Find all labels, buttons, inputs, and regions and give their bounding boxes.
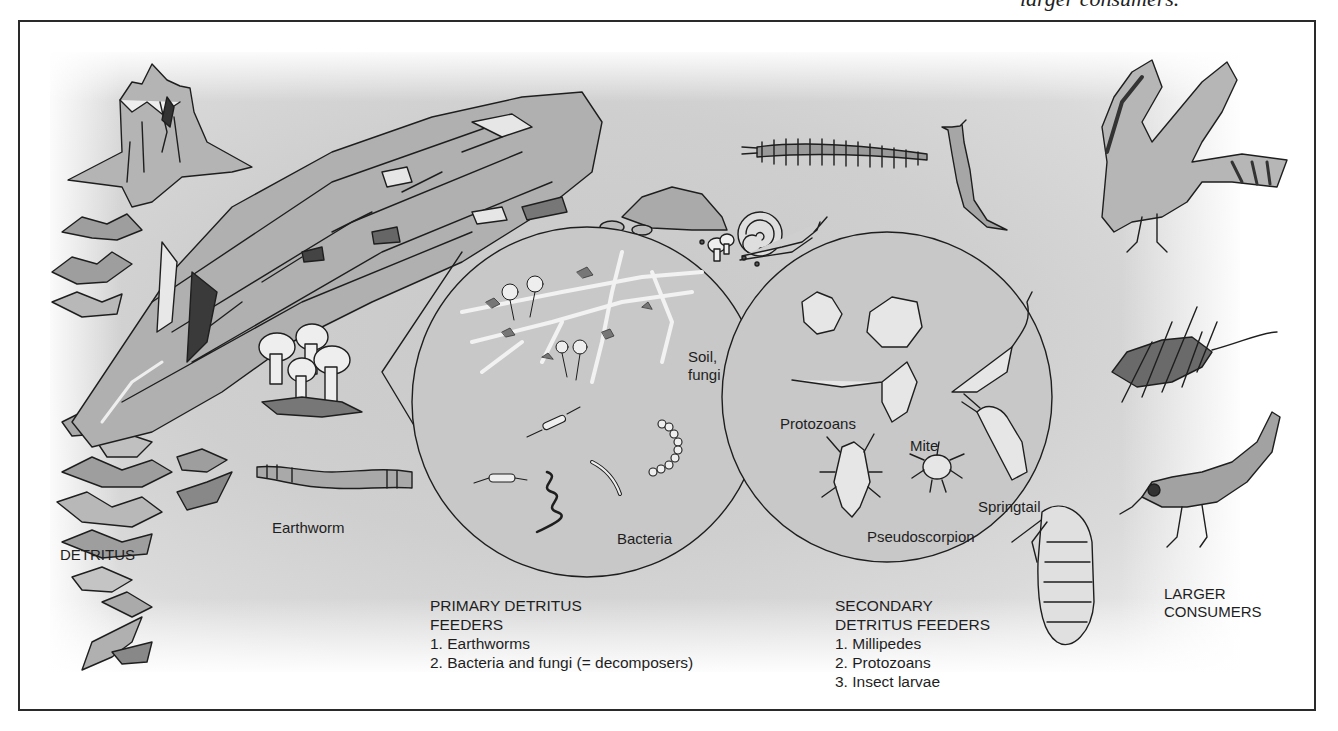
soil-fungi-circle [412,227,762,577]
primary-title: PRIMARY DETRITUS [430,596,693,615]
secondary-detritus-feeders: SECONDARY DETRITUS FEEDERS 1. Millipedes… [835,596,990,691]
bird-icon [1120,412,1280,547]
secondary-title: SECONDARY [835,596,990,615]
secondary-item: 3. Insect larvae [835,672,990,691]
insect-larva-icon [1032,506,1094,644]
tree-stump-icon [68,64,252,207]
hawk-icon [1102,60,1287,252]
label-pseudoscorpion: Pseudoscorpion [867,528,975,546]
primary-detritus-feeders: PRIMARY DETRITUS FEEDERS 1. Earthworms 2… [430,596,693,672]
label-mite: Mite [910,437,938,455]
primary-item: 2. Bacteria and fungi (= decomposers) [430,653,693,672]
primary-item: 1. Earthworms [430,634,693,653]
secondary-item: 1. Millipedes [835,634,990,653]
millipede-icon [742,139,927,168]
label-bacteria: Bacteria [617,530,672,548]
label-detritus: DETRITUS [60,546,135,564]
mushrooms-icon [259,324,362,417]
small-mushrooms-icon [708,234,734,261]
rat-icon [1112,307,1277,402]
label-soil-fungi: Soil, fungi [688,348,721,384]
figure-frame: DETRITUS Earthworm Soil, fungi Bacteria … [18,20,1316,711]
label-earthworm: Earthworm [272,519,345,537]
caption-fragment: larger consumers. [1020,0,1179,12]
primary-title-2: FEEDERS [430,615,693,634]
slug-icon [942,120,1007,230]
secondary-item: 2. Protozoans [835,653,990,672]
label-larger-consumers: LARGER CONSUMERS [1164,585,1262,621]
label-protozoans: Protozoans [780,415,856,433]
earthworm-icon [257,465,412,489]
label-springtail: Springtail [978,498,1041,516]
secondary-title-2: DETRITUS FEEDERS [835,615,990,634]
